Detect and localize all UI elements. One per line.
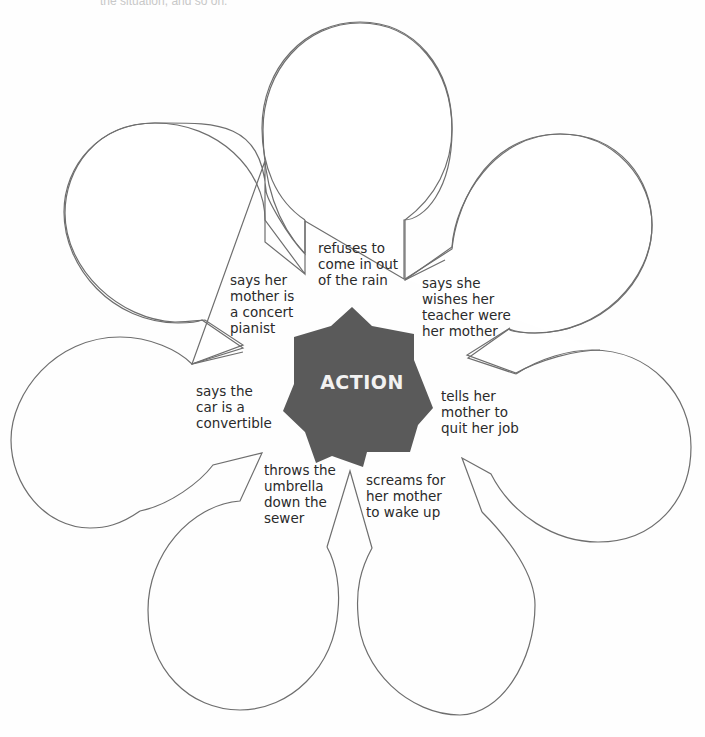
balloon-right-outline: [462, 350, 691, 542]
balloon-label-upper-left: says her mother is a concert pianist: [230, 272, 294, 336]
balloon-label-lower-right: screams for her mother to wake up: [366, 472, 445, 520]
balloon-label-upper-right: says she wishes her teacher were her mot…: [422, 275, 511, 339]
balloon-left-outline: [11, 337, 243, 528]
center-title: ACTION: [300, 371, 424, 393]
action-web-diagram: the situation, and so on.: [0, 0, 705, 737]
balloon-label-lower-left: throws the umbrella down the sewer: [264, 462, 336, 526]
balloon-outlines: [0, 0, 705, 737]
balloon-label-right: tells her mother to quit her job: [441, 388, 519, 436]
balloon-label-top: refuses to come in out of the rain: [318, 240, 398, 288]
balloon-label-left: says the car is a convertible: [196, 383, 272, 431]
